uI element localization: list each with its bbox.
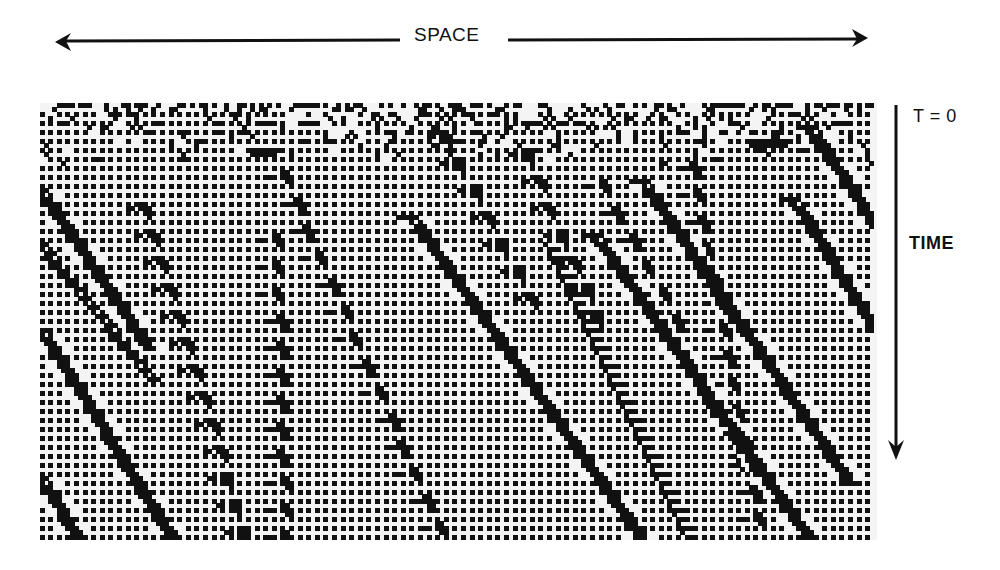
space-axis-label: SPACE	[414, 24, 480, 46]
time-axis-label: TIME	[909, 233, 954, 254]
cellular-automaton-spacetime-diagram	[40, 103, 877, 540]
time-origin-label: T = 0	[913, 106, 957, 127]
time-axis-arrow	[888, 105, 904, 460]
